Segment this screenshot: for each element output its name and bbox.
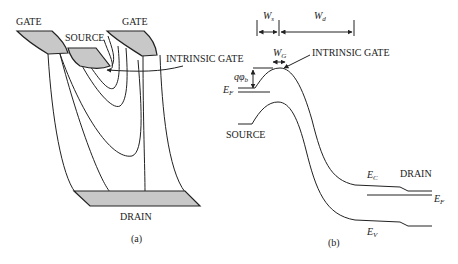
intrinsic-gate-arrow-b [284, 55, 310, 68]
outer-boundary-left [48, 54, 75, 192]
gate-left-pad [17, 31, 68, 54]
panel-b-diagram: Ws Wd WG INTRINSIC GATE qφb EF SOURCE EC… [222, 10, 445, 249]
drain-pad [74, 191, 200, 206]
wg-label: WG [273, 47, 286, 60]
source-label-b: SOURCE [226, 129, 265, 140]
gate-right-pad [107, 31, 157, 56]
panel-a-diagram: GATE GATE SOURCE INTRINSIC GATE DRAIN (a… [16, 16, 244, 245]
wd-label: Wd [314, 10, 326, 23]
inner-boundary-right [143, 55, 145, 192]
depletion-curve-inner2 [108, 36, 114, 66]
depletion-curve-large [60, 54, 141, 156]
ef-right-label: EF [433, 193, 445, 206]
caption-a: (a) [131, 233, 142, 245]
barrier-height-label: qφb [234, 71, 249, 84]
drain-label-b: DRAIN [400, 168, 432, 179]
gate-left-label: GATE [16, 16, 42, 27]
caption-b: (b) [328, 237, 340, 249]
intrinsic-gate-label-a: INTRINSIC GATE [166, 53, 244, 64]
ef-left-label: EF [222, 84, 234, 97]
intrinsic-gate-arrow [107, 66, 183, 71]
gate-right-label: GATE [122, 16, 148, 27]
intrinsic-gate-label-b: INTRINSIC GATE [312, 47, 390, 58]
ec-label: EC [366, 169, 378, 182]
drain-label-a: DRAIN [120, 211, 152, 222]
source-pad [68, 48, 110, 68]
ws-label: Ws [263, 10, 274, 23]
source-label: SOURCE [65, 32, 104, 43]
outer-boundary-right [160, 55, 185, 192]
ev-label: EV [366, 226, 378, 239]
valence-band [238, 102, 432, 226]
